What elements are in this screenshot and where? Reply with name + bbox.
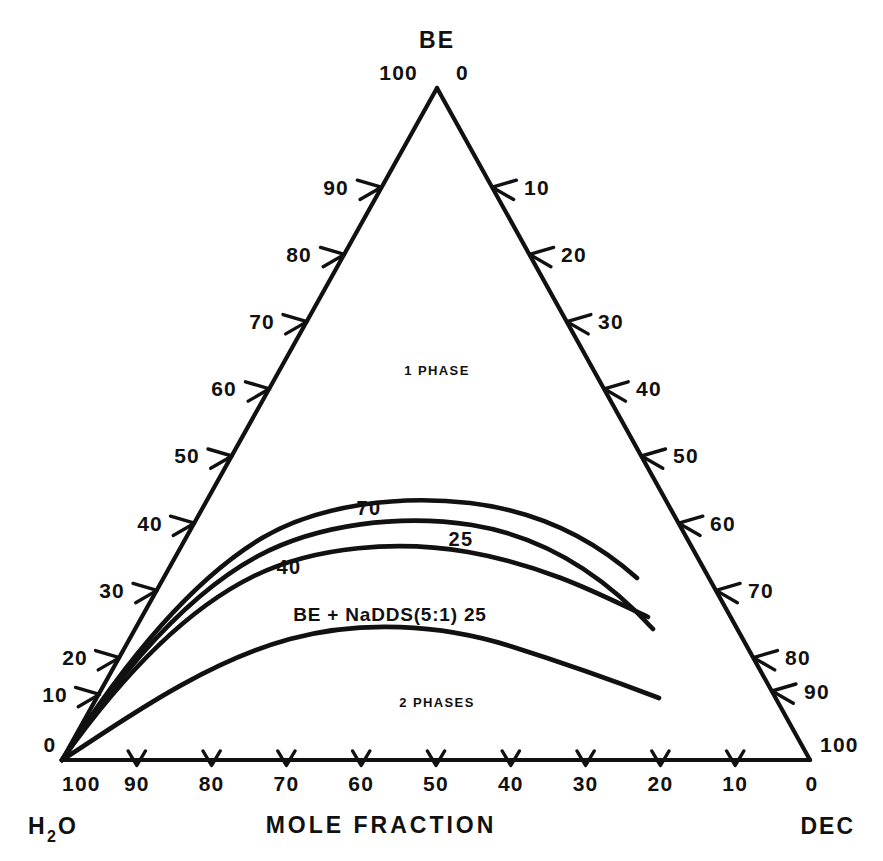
- bottom-tick-label-40: 40: [498, 772, 524, 795]
- right-tick-label-60: 60: [710, 512, 736, 535]
- left-corner-title-tail: O: [58, 813, 78, 839]
- left-tick-label-10: 10: [42, 683, 68, 706]
- right-tick-label-40: 40: [636, 377, 662, 400]
- triangle-outline: [62, 88, 810, 760]
- ternary-phase-diagram-figure: BE 100 0 90 80 70 60 50 40 30 20 10 10 2…: [0, 0, 883, 861]
- right-tick-label-50: 50: [673, 444, 699, 467]
- region-label-two-phases: 2 PHASES: [399, 695, 475, 710]
- left-tick-label-60: 60: [211, 377, 237, 400]
- curve-label-70: 70: [356, 497, 381, 519]
- left-tick-label-30: 30: [99, 579, 125, 602]
- left-corner-title-main: H: [28, 813, 47, 839]
- bottom-tick-label-30: 30: [573, 772, 599, 795]
- right-tick-label-80: 80: [785, 646, 811, 669]
- curve-label-nadds: BE + NaDDS(5:1) 25: [293, 604, 486, 625]
- apex-right-value: 0: [456, 61, 469, 84]
- bottom-axis-title: MOLE FRACTION: [266, 812, 497, 838]
- right-axis-ticks: [492, 180, 796, 703]
- left-tick-label-90: 90: [323, 176, 349, 199]
- left-corner-title-h2o: H 2 O: [28, 813, 78, 845]
- bottom-tick-label-50: 50: [423, 772, 449, 795]
- left-axis-tick-labels: 90 80 70 60 50 40 30 20 10: [42, 176, 349, 706]
- curve-label-40: 40: [276, 556, 301, 578]
- right-corner-lower-value: 0: [806, 772, 819, 795]
- bottom-tick-label-70: 70: [274, 772, 300, 795]
- bottom-tick-label-10: 10: [722, 772, 748, 795]
- left-tick-label-80: 80: [286, 243, 312, 266]
- left-corner-lower-value: 100: [62, 772, 101, 795]
- right-tick-label-20: 20: [561, 243, 587, 266]
- curve-label-25: 25: [448, 528, 473, 550]
- bottom-axis-tick-labels: 90 80 70 60 50 40 30 20 10: [124, 772, 748, 795]
- bottom-tick-label-60: 60: [348, 772, 374, 795]
- right-axis-tick-labels: 10 20 30 40 50 60 70 80 90: [524, 176, 830, 703]
- right-tick-label-70: 70: [748, 579, 774, 602]
- left-tick-label-50: 50: [174, 444, 200, 467]
- left-corner-upper-value: 0: [44, 733, 57, 756]
- right-tick-label-10: 10: [524, 176, 550, 199]
- phase-boundary-curves: [62, 500, 659, 760]
- phase-curve-naddS: [62, 627, 659, 760]
- region-label-one-phase: 1 PHASE: [404, 363, 469, 378]
- right-corner-upper-value: 100: [820, 733, 859, 756]
- bottom-tick-label-20: 20: [648, 772, 674, 795]
- apex-left-value: 100: [379, 61, 418, 84]
- right-tick-label-30: 30: [598, 310, 624, 333]
- left-tick-label-20: 20: [62, 646, 88, 669]
- right-corner-title-dec: DEC: [800, 813, 855, 839]
- right-tick-label-90: 90: [804, 680, 830, 703]
- bottom-tick-label-90: 90: [124, 772, 150, 795]
- left-tick-10: [76, 687, 100, 706]
- apex-title-BE: BE: [419, 27, 455, 53]
- phase-curve-40: [62, 546, 648, 760]
- ternary-diagram-canvas: BE 100 0 90 80 70 60 50 40 30 20 10 10 2…: [0, 0, 883, 861]
- bottom-tick-label-80: 80: [199, 772, 225, 795]
- left-corner-title-subscript: 2: [47, 828, 56, 845]
- left-tick-label-40: 40: [137, 512, 163, 535]
- left-tick-label-70: 70: [249, 310, 275, 333]
